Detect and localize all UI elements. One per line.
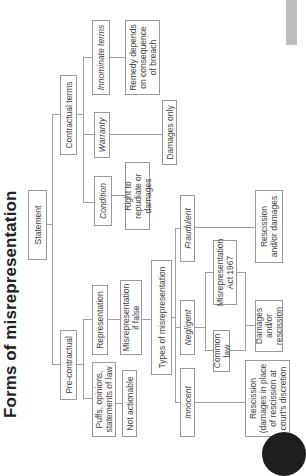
connector-line — [175, 228, 176, 403]
connector-line — [230, 350, 245, 351]
statement-node: Statement — [28, 190, 47, 260]
connector-line — [108, 319, 120, 320]
puffs-node: Puffs, opinions, statements of law — [92, 362, 116, 437]
negligent-node: Negligent — [180, 300, 195, 355]
pre-contractual-node: Pre-contractual — [60, 330, 77, 400]
fraudulent-node: Fraudulent — [180, 195, 195, 262]
common-law-node: Common law — [213, 330, 230, 372]
damages-and-or-rescission-node: Damages and/or rescission — [255, 300, 283, 352]
connector-line — [83, 202, 94, 203]
misrep-if-false-node: Misrepresentation if false — [120, 280, 142, 355]
connector-line — [110, 134, 162, 135]
right-to-repudiate-node: Right to repudiate or damages — [125, 162, 150, 230]
connector-line — [110, 57, 125, 58]
contractual-terms-node: Contractual terms — [60, 75, 77, 155]
connector-line — [205, 272, 206, 351]
connector-line — [83, 57, 84, 203]
connector-line — [245, 272, 246, 351]
innocent-node: Innocent — [180, 368, 195, 437]
types-of-misrep-node: Types of misrepresentation — [151, 260, 172, 375]
connector-line — [195, 402, 245, 403]
connector-line — [83, 319, 84, 399]
connector-line — [83, 57, 92, 58]
connector-line — [52, 364, 60, 365]
misrep-act-node: Misrepresentation Act 1967 — [213, 240, 237, 305]
page-number-circle — [262, 432, 306, 476]
page-title: Forms of misrepresentation — [1, 191, 21, 418]
connector-line — [205, 272, 213, 273]
connector-line — [83, 398, 92, 399]
connector-line — [195, 227, 255, 228]
not-actionable-node: Not actionable — [122, 370, 137, 437]
thumb-index-tab — [286, 0, 297, 45]
connector-line — [237, 272, 245, 273]
innominate-terms-node: Innominate terms — [92, 20, 110, 95]
condition-node: Condition — [94, 176, 112, 226]
connector-line — [83, 319, 92, 320]
remedy-depends-node: Remedy depends on consequence of breach — [125, 20, 160, 95]
rescission-and-or-damages-node: Rescission and/or damages — [255, 190, 283, 263]
rescission-discretion-node: Rescission (damages in place of rescissi… — [245, 360, 290, 437]
connector-line — [83, 134, 94, 135]
warranty-node: Warranty — [94, 112, 110, 158]
connector-line — [52, 114, 60, 115]
damages-only-node: Damages only — [162, 100, 177, 165]
representation-node: Representation — [92, 285, 108, 355]
connector-line — [195, 327, 205, 328]
connector-line — [142, 319, 151, 320]
connector-line — [52, 114, 53, 365]
